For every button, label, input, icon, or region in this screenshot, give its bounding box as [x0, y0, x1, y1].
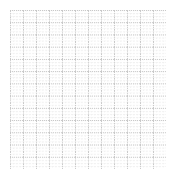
major-gridlines [10, 10, 166, 169]
gridlines-group [10, 10, 166, 169]
plot-axes-area[interactable] [10, 10, 166, 169]
chart-figure [0, 0, 173, 180]
